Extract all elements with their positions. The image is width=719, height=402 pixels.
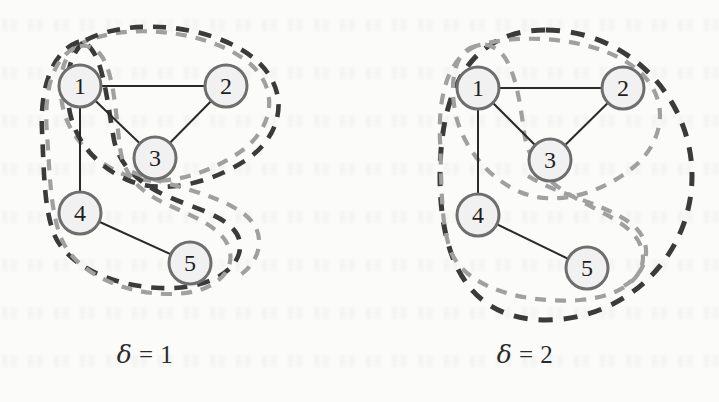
caption-right-relation: =: [512, 341, 540, 368]
left-node-5-label: 5: [184, 250, 196, 276]
right-node-4-label: 4: [472, 202, 484, 228]
left-node-2-label: 2: [220, 73, 232, 99]
right-node-5[interactable]: 5: [566, 247, 608, 289]
left-node-1[interactable]: 1: [59, 65, 101, 107]
figure-page: 1 2 3 4 5: [0, 0, 719, 402]
left-node-3[interactable]: 3: [134, 137, 176, 179]
panel-left: 1 2 3 4 5: [42, 27, 279, 294]
right-node-5-label: 5: [581, 255, 593, 281]
caption-left-symbol: δ: [117, 340, 133, 369]
caption-right-panel: δ = 2: [450, 340, 600, 369]
right-node-1[interactable]: 1: [457, 67, 499, 109]
left-node-4[interactable]: 4: [59, 192, 101, 234]
caption-left-value: 1: [160, 341, 173, 368]
panel-right: 1 2 3 4 5: [440, 30, 692, 320]
right-node-2[interactable]: 2: [602, 67, 644, 109]
left-node-2[interactable]: 2: [205, 65, 247, 107]
caption-right-value: 2: [540, 341, 553, 368]
caption-left-relation: =: [132, 341, 160, 368]
right-node-2-label: 2: [617, 75, 629, 101]
right-node-1-label: 1: [472, 75, 484, 101]
left-node-3-label: 3: [149, 145, 161, 171]
left-node-1-label: 1: [74, 73, 86, 99]
caption-right-symbol: δ: [497, 340, 513, 369]
left-node-5[interactable]: 5: [169, 242, 211, 284]
right-node-3-label: 3: [544, 147, 556, 173]
left-node-4-label: 4: [74, 200, 86, 226]
caption-left-panel: δ = 1: [70, 340, 220, 369]
right-node-3[interactable]: 3: [529, 139, 571, 181]
right-node-4[interactable]: 4: [457, 194, 499, 236]
